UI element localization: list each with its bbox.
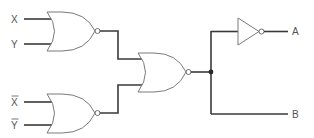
nor-gate-3 [138, 53, 191, 92]
wire-g2-to-g3 [100, 85, 145, 113]
not-gate [238, 18, 264, 45]
output-label-b: B [292, 109, 299, 120]
nor-gate-2-bubble [95, 111, 100, 116]
not-gate-bubble [259, 29, 264, 34]
input-label-y: Y [11, 39, 18, 50]
wire-g1-to-g3 [100, 31, 145, 59]
input-label-not-y: Y [11, 120, 18, 131]
nor-gate-1-bubble [95, 29, 100, 34]
input-label-not-x: X [11, 97, 18, 108]
input-label-y-bar: Y [11, 119, 19, 131]
nor-gate-3-bubble [186, 70, 191, 75]
nor-gate-2 [47, 94, 100, 133]
nor-gate-1 [47, 12, 100, 51]
output-label-a: A [292, 26, 299, 37]
logic-circuit-diagram: X Y X Y A B [0, 0, 314, 138]
junction-dot [209, 70, 214, 75]
input-label-x: X [11, 14, 18, 25]
input-label-x-bar: X [11, 96, 19, 108]
